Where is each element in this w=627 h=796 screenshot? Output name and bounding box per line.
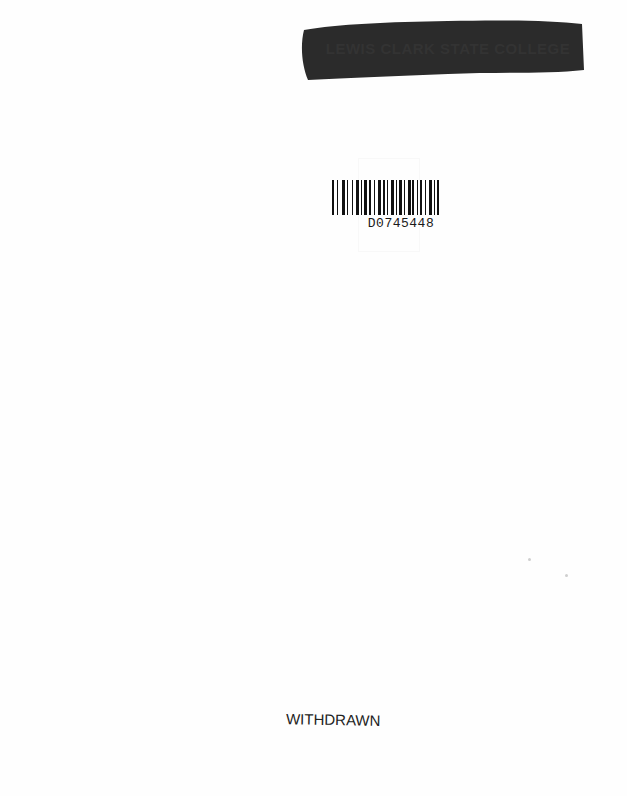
- barcode-icon: [332, 180, 439, 215]
- library-stamp-text: LEWIS CLARK STATE COLLEGE: [320, 40, 576, 57]
- redacted-library-stamp: LEWIS CLARK STATE COLLEGE: [298, 16, 586, 80]
- scan-speck: [528, 558, 531, 561]
- withdrawn-stamp: WITHDRAWN: [286, 710, 381, 729]
- scan-speck: [565, 574, 568, 577]
- document-page: LEWIS CLARK STATE COLLEGE: [0, 0, 627, 796]
- barcode-number: D0745448: [312, 216, 490, 231]
- barcode-label: D0745448: [312, 158, 490, 254]
